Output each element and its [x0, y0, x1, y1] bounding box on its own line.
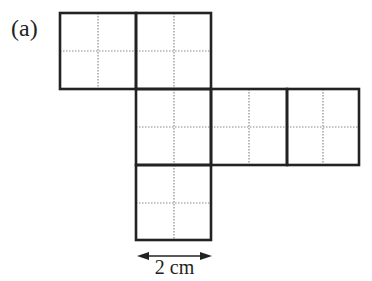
square-r0-c0 — [60, 13, 136, 89]
cube-net-diagram — [0, 0, 372, 281]
dotted-grid-lines — [60, 13, 359, 240]
square-r1-c2 — [211, 89, 287, 165]
dimension-label: 2 cm — [137, 257, 212, 277]
